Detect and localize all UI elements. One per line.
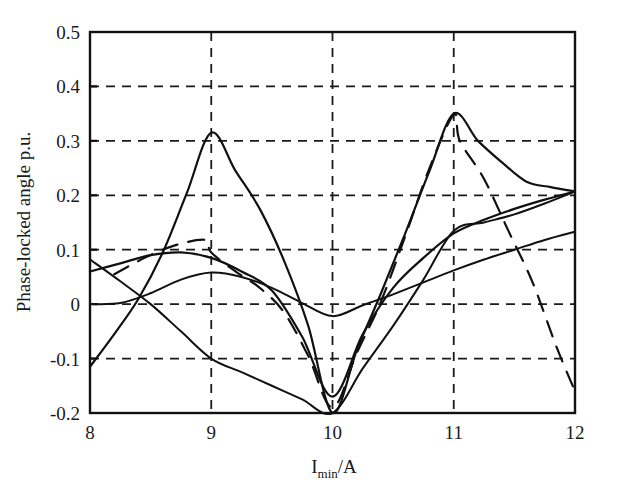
x-tick-label: 8 bbox=[85, 422, 95, 443]
x-axis-title-subscript: min bbox=[318, 466, 339, 481]
line-chart: 89101112 -0.2-0.100.10.20.30.40.5 Phase-… bbox=[0, 0, 622, 488]
y-tick-label: 0.2 bbox=[56, 185, 80, 206]
y-tick-label: 0.1 bbox=[56, 240, 80, 261]
y-tick-label: 0.4 bbox=[56, 76, 80, 97]
y-tick-label: 0.3 bbox=[56, 131, 80, 152]
y-tick-label: 0.5 bbox=[56, 22, 80, 43]
x-axis-title-tail: /A bbox=[338, 456, 357, 477]
chart-figure: 89101112 -0.2-0.100.10.20.30.40.5 Phase-… bbox=[0, 0, 622, 488]
y-tick-label: 0 bbox=[71, 294, 81, 315]
y-tick-label: -0.1 bbox=[50, 349, 80, 370]
x-tick-label: 12 bbox=[566, 422, 585, 443]
x-tick-label: 10 bbox=[323, 422, 342, 443]
y-axis-title: Phase-locked angle p.u. bbox=[13, 132, 34, 312]
x-tick-label: 11 bbox=[445, 422, 463, 443]
y-tick-label: -0.2 bbox=[50, 403, 80, 424]
x-tick-label: 9 bbox=[207, 422, 217, 443]
